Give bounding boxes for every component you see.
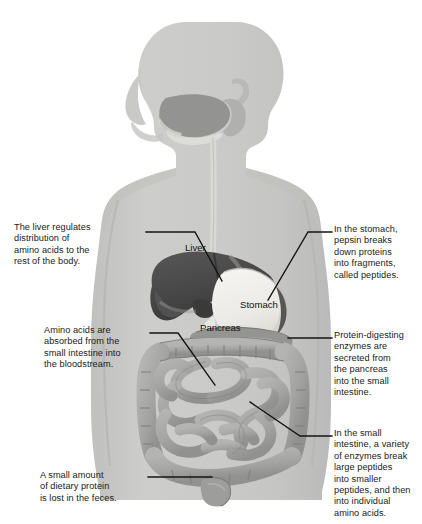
organ-label-pancreas: Pancreas bbox=[200, 322, 241, 333]
callout-liver-regulates-amino-acids: The liver regulates distribution of amin… bbox=[14, 222, 144, 268]
callout-stomach-pepsin: In the stomach, pepsin breaks down prote… bbox=[334, 224, 420, 281]
callout-protein-lost-in-feces: A small amount of dietary protein is los… bbox=[40, 470, 160, 504]
rectum bbox=[201, 477, 231, 506]
organ-label-stomach: Stomach bbox=[240, 299, 278, 310]
anatomy-diagram: Liver Stomach Pancreas The liver regulat… bbox=[0, 0, 422, 524]
organ-label-liver: Liver bbox=[185, 242, 206, 253]
callout-amino-acids-absorbed: Amino acids are absorbed from the small … bbox=[44, 325, 160, 371]
callout-pancreatic-enzymes: Protein-digesting enzymes are secreted f… bbox=[334, 330, 420, 398]
callout-small-intestine-enzymes: In the small intestine, a variety of enz… bbox=[334, 428, 422, 519]
